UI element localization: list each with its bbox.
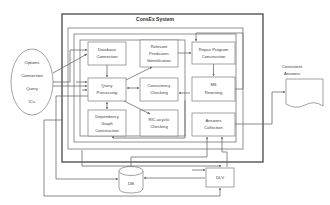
input-oval-line-4: ICs (29, 99, 35, 104)
edge-system-to-dlv-top (82, 150, 220, 167)
module-consistency-checking-line-1: Consistency (148, 83, 172, 88)
edge-input-riser-to-database-connection (53, 50, 87, 82)
edge-query-processing-to-ric-acyclic (124, 101, 150, 114)
module-consistency-checking-line-2: Checking (150, 90, 168, 95)
module-repair-program-line-2: Construction (202, 54, 226, 59)
module-ms-rewriting-line-1: MS (210, 82, 216, 87)
dlv-label: DLV (216, 175, 224, 180)
module-relevant-predicates-line-2: Predicates (149, 51, 169, 56)
module-ric-acyclic-checking (140, 110, 178, 136)
module-dependency-graph-line-3: Construction (95, 128, 119, 133)
db-label: DB (128, 181, 134, 186)
module-relevant-predicates-line-3: Identification (147, 58, 171, 63)
edge-answers-collection-to-consistent-answers (235, 92, 285, 124)
module-ric-acyclic-line-2: Checking (150, 124, 168, 129)
db-cylinder (119, 167, 143, 194)
module-answers-collection-line-2: Collection (204, 125, 223, 130)
module-dependency-graph-line-1: Dependency (95, 114, 119, 119)
consex-system-architecture-diagram: ConsEx System Options Connection Query I… (0, 0, 330, 205)
module-database-connection-line-1: Database (98, 47, 117, 52)
module-ric-acyclic-line-1: RIC-acyclic (148, 117, 169, 122)
module-database-connection-line-2: Connection (96, 54, 118, 59)
diagram-canvas: ConsEx System Options Connection Query I… (0, 0, 330, 205)
module-ms-rewriting (192, 77, 235, 101)
input-oval-line-2: Connection (21, 73, 43, 78)
input-oval (11, 49, 53, 115)
module-repair-program-construction (192, 42, 235, 64)
module-ms-rewriting-line-2: Rewriting (205, 90, 223, 95)
system-title: ConsEx System (136, 16, 174, 22)
module-query-processing-line-2: Processing (97, 90, 118, 95)
consistent-answers-label-line-1: Consistent (282, 64, 303, 69)
input-oval-line-1: Options (25, 60, 40, 65)
module-dependency-graph-line-2: Graph (101, 121, 113, 126)
consistent-answers-document (286, 79, 323, 107)
consistent-answers-label-line-2: Answers (284, 71, 300, 76)
edge-query-processing-to-db (56, 96, 118, 179)
module-relevant-predicates-line-1: Relevant (151, 44, 168, 49)
input-oval-line-3: Query (26, 86, 39, 91)
module-repair-program-line-1: Repair Program (199, 47, 229, 52)
module-query-processing-line-1: Query (101, 83, 113, 88)
module-answers-collection-line-1: Answers (205, 118, 221, 123)
